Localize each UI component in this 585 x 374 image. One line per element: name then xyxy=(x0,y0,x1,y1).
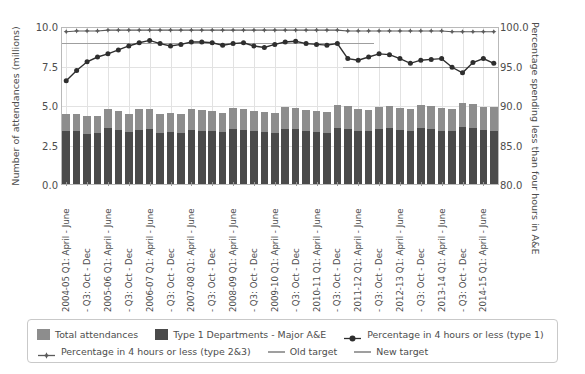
marker-type23 xyxy=(210,28,215,33)
x-tick-label: 2010-11 Q1: April - June xyxy=(312,186,322,312)
legend-item: Old target xyxy=(268,346,337,357)
marker-type1 xyxy=(272,42,277,47)
marker-type1 xyxy=(324,43,329,48)
y-tick-label: 10.0 xyxy=(36,22,58,33)
x-tick-label: 2007-08 Q1: April - June xyxy=(186,186,196,312)
chart-legend: Total attendancesType 1 Departments - Ma… xyxy=(27,319,558,363)
marker-type23 xyxy=(429,28,434,33)
marker-type23 xyxy=(251,28,256,33)
marker-type1 xyxy=(241,40,246,45)
marker-type1 xyxy=(439,56,444,61)
marker-type23 xyxy=(314,28,319,33)
marker-type1 xyxy=(450,65,455,70)
x-tick-label: - Q3: Oct - Dec xyxy=(291,186,301,312)
marker-type23 xyxy=(408,28,413,33)
marker-type23 xyxy=(230,28,235,33)
marker-type1 xyxy=(178,42,183,47)
marker-type23 xyxy=(126,28,131,33)
y-tick-label: 80.0 xyxy=(500,180,522,191)
marker-type1 xyxy=(137,40,142,45)
marker-type23 xyxy=(157,28,162,33)
marker-type23 xyxy=(241,28,246,33)
marker-type23 xyxy=(262,28,267,33)
x-tick-label: 2008-09 Q1: April - June xyxy=(228,186,238,312)
marker-type1 xyxy=(210,40,215,45)
legend-swatch-marker xyxy=(343,329,362,340)
marker-type1 xyxy=(95,55,100,60)
marker-type1 xyxy=(418,58,423,63)
x-tick-label: 2014-15 Q1: April - June xyxy=(478,186,488,312)
y-axis-left-ticks: 0.02.55.07.510.0 xyxy=(20,0,58,374)
legend-swatch-box xyxy=(37,329,50,340)
marker-type1 xyxy=(231,41,236,46)
marker-type23 xyxy=(418,28,423,33)
marker-type23 xyxy=(303,28,308,33)
y-tick-label: 100.0 xyxy=(500,22,529,33)
marker-type1 xyxy=(314,42,319,47)
marker-type1 xyxy=(262,45,267,50)
marker-type1 xyxy=(293,39,298,44)
x-tick-label: - Q3: Oct - Dec xyxy=(207,186,217,312)
marker-type1 xyxy=(408,61,413,66)
marker-type23 xyxy=(272,28,277,33)
legend-item: Percentage in 4 hours or less (type 1) xyxy=(343,329,543,340)
marker-type23 xyxy=(324,28,329,33)
legend-row-2: Percentage in 4 hours or less (type 2&3)… xyxy=(37,343,548,360)
marker-type23 xyxy=(74,28,79,33)
x-tick-label: 2012-13 Q1: April - June xyxy=(395,186,405,312)
legend-swatch-line xyxy=(268,351,285,353)
x-tick-label: - Q3: Oct - Dec xyxy=(458,186,468,312)
legend-item-label: Total attendances xyxy=(55,329,138,340)
x-tick-label: 2006-07 Q1: April - June xyxy=(145,186,155,312)
legend-row-1: Total attendancesType 1 Departments - Ma… xyxy=(37,326,548,343)
y-tick-label: 90.0 xyxy=(500,101,522,112)
legend-item-label: New target xyxy=(376,346,428,357)
legend-item: Type 1 Departments - Major A&E xyxy=(155,329,326,340)
y-tick-label: 85.0 xyxy=(500,140,522,151)
marker-type1 xyxy=(429,57,434,62)
marker-type23 xyxy=(356,28,361,33)
legend-swatch-line xyxy=(354,351,371,353)
marker-type23 xyxy=(345,28,350,33)
marker-type23 xyxy=(116,28,121,33)
marker-type23 xyxy=(199,28,204,33)
legend-item: Total attendances xyxy=(37,329,138,340)
marker-type23 xyxy=(168,28,173,33)
legend-item-label: Percentage in 4 hours or less (type 1) xyxy=(367,329,543,340)
marker-type23 xyxy=(137,28,142,33)
x-axis-ticks: 2004-05 Q1: April - June- Q3: Oct - Dec2… xyxy=(61,186,499,314)
marker-type23 xyxy=(439,28,444,33)
legend-item-label: Type 1 Departments - Major A&E xyxy=(173,329,326,340)
legend-item-label: Percentage in 4 hours or less (type 2&3) xyxy=(61,346,251,357)
marker-type23 xyxy=(470,29,475,34)
chart-figure: Number of attendances (millions) Percent… xyxy=(0,0,585,374)
marker-type23 xyxy=(147,28,152,33)
marker-type1 xyxy=(64,78,69,83)
marker-type23 xyxy=(449,29,454,34)
marker-type1 xyxy=(460,70,465,75)
marker-type1 xyxy=(387,52,392,57)
y-tick-label: 95.0 xyxy=(500,61,522,72)
marker-type1 xyxy=(116,47,121,52)
legend-swatch-marker xyxy=(37,346,56,357)
marker-type1 xyxy=(366,55,371,60)
y-tick-label: 7.5 xyxy=(42,61,58,72)
marker-type1 xyxy=(74,68,79,73)
marker-type23 xyxy=(481,29,486,34)
y-axis-right-ticks: 80.085.090.095.0100.0 xyxy=(500,0,540,374)
marker-type1 xyxy=(220,43,225,48)
marker-type1 xyxy=(345,56,350,61)
marker-type23 xyxy=(397,28,402,33)
line-series-layer xyxy=(61,27,499,185)
marker-type1 xyxy=(283,40,288,45)
x-tick-label: 2013-14 Q1: April - June xyxy=(437,186,447,312)
marker-type1 xyxy=(377,51,382,56)
marker-type1 xyxy=(491,61,496,66)
marker-type23 xyxy=(95,28,100,33)
marker-type23 xyxy=(84,28,89,33)
x-tick-label: 2011-12 Q1: April - June xyxy=(353,186,363,312)
marker-type23 xyxy=(220,28,225,33)
x-tick-label: 2004-05 Q1: April - June xyxy=(61,186,71,312)
marker-type23 xyxy=(366,28,371,33)
marker-type1 xyxy=(158,41,163,46)
